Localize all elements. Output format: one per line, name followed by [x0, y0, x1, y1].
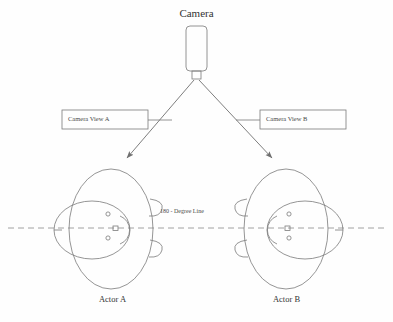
actor-b-eye-upper: [287, 212, 291, 216]
actor-a-eye-upper: [106, 212, 110, 216]
actor-b-label: Actor B: [180, 295, 393, 304]
actor-a-figure: [54, 169, 162, 289]
actor-b-body: [244, 169, 328, 289]
camera-to-actor-a-arrow: [127, 80, 194, 158]
actor-a-head: [54, 201, 130, 259]
diagram-illustration: [0, 0, 393, 322]
camera-view-b-label: Camera View B: [266, 116, 307, 123]
degree-line-label: 180 - Degree Line: [160, 208, 204, 214]
camera-lens: [192, 71, 201, 79]
camera-view-a-label: Camera View A: [68, 116, 109, 123]
camera-to-actor-b-arrow: [199, 80, 272, 158]
actor-b-ear-upper: [235, 199, 248, 216]
camera-title-label: Camera: [0, 8, 393, 19]
actor-b-head: [267, 201, 343, 259]
camera-body: [186, 26, 207, 71]
diagram-canvas: Camera Camera View A Camera View B 180 -…: [0, 0, 393, 322]
actor-b-eye-lower: [287, 236, 291, 240]
actor-a-body: [69, 169, 153, 289]
actor-b-figure: [235, 169, 343, 289]
actor-a-eye-lower: [106, 236, 110, 240]
